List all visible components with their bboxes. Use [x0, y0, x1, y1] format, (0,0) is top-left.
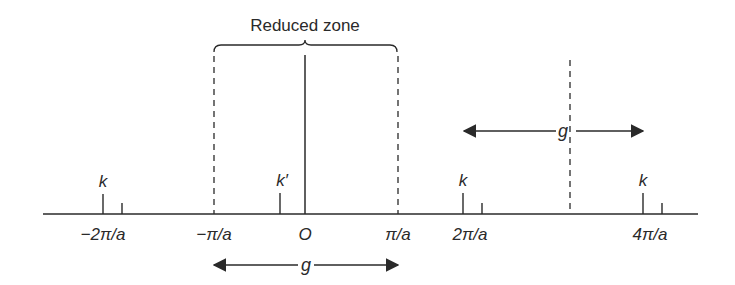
tick-label-neg-pi-a: −π/a [196, 225, 232, 244]
reduced-zone-title: Reduced zone [250, 16, 360, 35]
tick-label-origin: O [298, 225, 311, 244]
k-label-2: k [459, 171, 469, 190]
tick-label-neg-2pi-a: −2π/a [81, 225, 126, 244]
k-label-3: k [639, 171, 649, 190]
tick-label-4pi-a: 4π/a [632, 225, 667, 244]
tick-label-2pi-a: 2π/a [451, 225, 487, 244]
g-label-lower: g [301, 255, 311, 275]
reduced-zone-brace [214, 40, 397, 52]
tick-label-pi-a: π/a [385, 225, 411, 244]
k-label-1: k [99, 172, 109, 191]
g-label-upper: g [558, 121, 568, 141]
brillouin-zone-diagram: Reduced zone k k′ k k −2π/a −π/a O π/a 2… [0, 0, 735, 285]
k-prime-label: k′ [276, 171, 289, 190]
